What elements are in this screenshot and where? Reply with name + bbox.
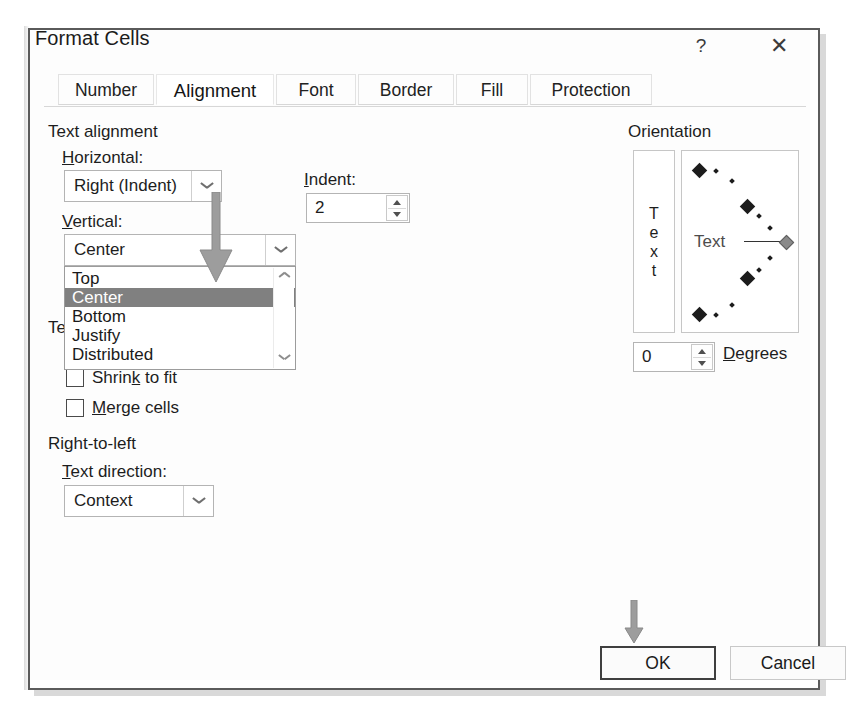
chevron-down-icon xyxy=(201,182,212,189)
degrees-increment-button[interactable] xyxy=(692,345,712,357)
dial-dot-8[interactable] xyxy=(713,312,719,318)
text-direction-combo[interactable]: Context xyxy=(64,485,214,517)
degrees-label: Degrees xyxy=(723,344,787,364)
dial-dot-3[interactable] xyxy=(756,213,762,219)
merge-cells-checkbox[interactable] xyxy=(66,399,84,417)
orientation-dial[interactable]: Text xyxy=(681,150,799,333)
dial-dot-7[interactable] xyxy=(729,302,735,308)
indent-spinner-arrows[interactable] xyxy=(386,195,408,221)
close-icon[interactable]: ✕ xyxy=(762,32,796,60)
triangle-up-icon xyxy=(698,349,706,354)
vertical-combo-value: Center xyxy=(74,235,125,265)
merge-cells-label: Merge cells xyxy=(92,397,179,419)
tab-number[interactable]: Number xyxy=(58,74,154,105)
shrink-to-fit-label: Shrink to fit xyxy=(92,367,177,389)
vertical-combo-dropdown-button[interactable] xyxy=(265,235,295,265)
dial-marker-0-handle[interactable] xyxy=(779,235,795,251)
dialog-title-bar: Format Cells ? ✕ xyxy=(30,30,818,64)
horizontal-label: Horizontal: xyxy=(62,148,143,168)
orientation-vertical-text-button[interactable]: T e x t xyxy=(633,150,675,333)
dial-marker-neg90[interactable] xyxy=(692,307,708,323)
tab-alignment[interactable]: Alignment xyxy=(156,74,274,105)
right-to-left-heading: Right-to-left xyxy=(48,434,136,454)
indent-spinner[interactable]: 2 xyxy=(306,193,410,223)
dial-dot-1[interactable] xyxy=(713,168,719,174)
shrink-to-fit-checkbox[interactable] xyxy=(66,369,84,387)
dial-dot-6[interactable] xyxy=(756,267,762,273)
text-direction-dropdown-button[interactable] xyxy=(183,486,213,516)
triangle-up-icon xyxy=(393,200,401,205)
horizontal-combo-value: Right (Indent) xyxy=(74,171,177,201)
indent-increment-button[interactable] xyxy=(387,196,407,208)
chevron-down-icon xyxy=(193,497,204,504)
triangle-down-icon xyxy=(393,212,401,217)
dial-marker-90[interactable] xyxy=(692,163,708,179)
dropdown-option-bottom[interactable]: Bottom xyxy=(65,307,295,326)
orientation-heading: Orientation xyxy=(628,122,711,142)
vertical-dropdown-list[interactable]: Top Center Bottom Justify Distributed xyxy=(64,266,296,370)
vertical-label: Vertical: xyxy=(62,212,122,232)
scroll-up-button[interactable] xyxy=(274,270,294,288)
arrow-to-ok-button-annotation xyxy=(623,600,645,644)
dial-marker-neg45[interactable] xyxy=(740,271,756,287)
triangle-down-icon xyxy=(698,361,706,366)
chevron-down-icon xyxy=(279,354,290,360)
text-direction-label: Text direction: xyxy=(62,462,167,482)
dial-dot-4[interactable] xyxy=(767,225,773,231)
scroll-down-button[interactable] xyxy=(274,348,294,366)
dial-marker-45[interactable] xyxy=(740,199,756,215)
indent-value: 2 xyxy=(315,194,324,222)
tab-strip: Number Alignment Font Border Fill Protec… xyxy=(44,74,806,107)
degrees-spinner-arrows[interactable] xyxy=(691,344,713,370)
dropdown-option-distributed[interactable]: Distributed xyxy=(65,345,295,364)
arrow-to-vertical-dropdown-annotation xyxy=(196,192,236,284)
cancel-button[interactable]: Cancel xyxy=(730,646,846,680)
chevron-up-icon xyxy=(279,276,290,282)
degrees-value: 0 xyxy=(642,343,651,371)
degrees-spinner[interactable]: 0 xyxy=(633,342,715,372)
dial-dot-5[interactable] xyxy=(767,255,773,261)
vertical-combo[interactable]: Center xyxy=(64,234,296,266)
dropdown-scrollbar[interactable] xyxy=(273,268,294,368)
chevron-down-icon xyxy=(275,246,286,253)
dial-dot-2[interactable] xyxy=(729,178,735,184)
dropdown-option-top[interactable]: Top xyxy=(65,269,295,288)
indent-decrement-button[interactable] xyxy=(387,208,407,220)
help-icon[interactable]: ? xyxy=(684,32,718,60)
vertical-text-stack: T e x t xyxy=(634,204,674,280)
vertical-text-letter-x: x xyxy=(634,242,674,261)
tab-protection[interactable]: Protection xyxy=(530,74,652,105)
dropdown-option-justify[interactable]: Justify xyxy=(65,326,295,345)
degrees-decrement-button[interactable] xyxy=(692,357,712,369)
orientation-dial-label: Text xyxy=(694,232,725,252)
text-alignment-heading: Text alignment xyxy=(48,122,158,142)
indent-label: Indent: xyxy=(304,170,356,190)
dialog-title: Format Cells xyxy=(35,27,150,50)
vertical-text-letter-e: e xyxy=(634,223,674,242)
ok-button[interactable]: OK xyxy=(600,646,716,680)
vertical-text-letter-t2: t xyxy=(634,261,674,280)
tab-border[interactable]: Border xyxy=(358,74,454,105)
tab-fill[interactable]: Fill xyxy=(456,74,528,105)
screenshot-root: Format Cells ? ✕ Number Alignment Font B… xyxy=(0,0,852,725)
format-cells-dialog: Format Cells ? ✕ Number Alignment Font B… xyxy=(28,28,820,690)
text-direction-value: Context xyxy=(74,486,133,516)
dropdown-option-center[interactable]: Center xyxy=(65,288,295,307)
vertical-text-letter-t1: T xyxy=(634,204,674,223)
tab-font[interactable]: Font xyxy=(276,74,356,105)
